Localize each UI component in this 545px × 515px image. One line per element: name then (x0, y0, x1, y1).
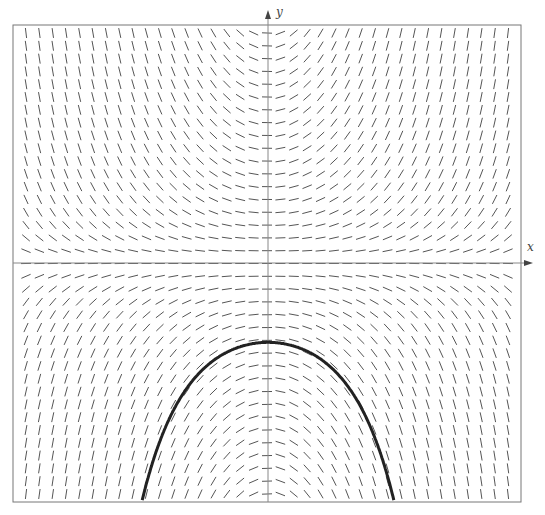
x-axis-arrow-icon (524, 260, 533, 266)
x-axis-label: x (527, 240, 534, 254)
y-axis-arrow-icon (265, 10, 271, 19)
y-axis-label: y (276, 5, 283, 19)
slope-field-plot (0, 0, 545, 515)
